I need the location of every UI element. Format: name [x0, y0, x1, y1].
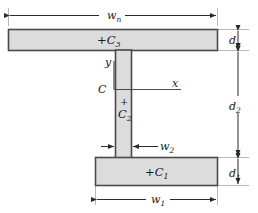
- dimension-depth-top: dn: [229, 31, 241, 49]
- label-depth-top: dn: [229, 34, 241, 49]
- diagram-canvas: wn +C3 dn d2 d1 y C x + C2 w2 +C1: [0, 0, 258, 213]
- dimension-depth-bottom: d1: [229, 159, 241, 184]
- dimension-width-web: w2: [101, 140, 174, 155]
- label-c2-plus: +: [120, 96, 128, 107]
- label-width-web: w2: [160, 140, 174, 155]
- label-centroid-origin: C: [98, 83, 107, 96]
- label-y-axis: y: [104, 56, 112, 69]
- coordinate-axes: y C x: [98, 56, 181, 96]
- dimension-width-bottom: w1: [97, 192, 216, 208]
- label-x-axis: x: [172, 77, 179, 90]
- label-depth-bottom: d1: [229, 167, 241, 182]
- dimension-width-top: wn: [10, 8, 216, 24]
- dimension-depth-web: d2: [226, 52, 250, 156]
- beam-cross-section-svg: wn +C3 dn d2 d1 y C x + C2 w2 +C1: [0, 0, 258, 213]
